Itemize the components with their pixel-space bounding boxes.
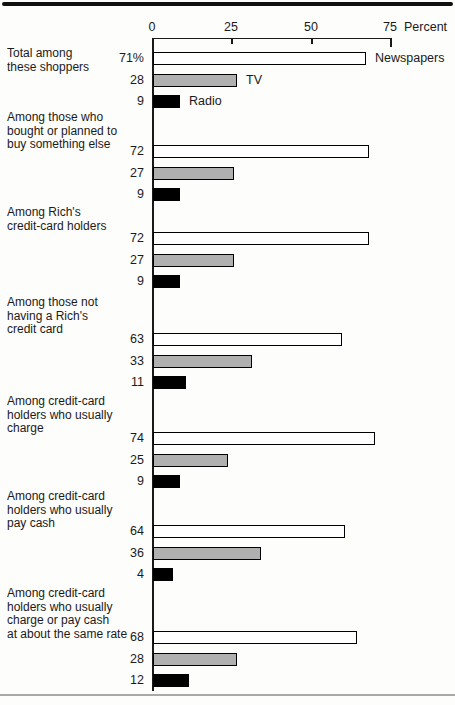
group-label-line: Among credit-card: [7, 490, 112, 504]
group-label: Total amongthese shoppers: [7, 47, 89, 74]
bar-newspapers: [153, 333, 342, 346]
group-label-line: credit-card holders: [7, 220, 106, 234]
axis-tick-label: 0: [136, 20, 168, 34]
bar-value-label: 9: [86, 188, 144, 201]
bar-value-label: 11: [86, 376, 144, 389]
series-legend-label: Radio: [189, 95, 222, 108]
bar-value-label: 71%: [86, 52, 144, 65]
bar-newspapers: [153, 232, 369, 245]
bar-radio: [153, 376, 186, 389]
bar-radio: [153, 475, 180, 488]
bar-radio: [153, 674, 189, 687]
bar-value-label: 12: [86, 674, 144, 687]
bar-tv: [153, 167, 234, 180]
bar-newspapers: [153, 525, 345, 538]
group-label-line: Among Rich's: [7, 206, 106, 220]
bar-newspapers: [153, 631, 357, 644]
bar-value-label: 64: [86, 525, 144, 538]
axis-tick-label: 25: [215, 20, 247, 34]
bar-value-label: 33: [86, 355, 144, 368]
group-label-line: Among credit-card: [7, 587, 127, 601]
axis-tick-mark: [311, 38, 313, 44]
bar-value-label: 9: [86, 95, 144, 108]
axis-tick-mark: [390, 38, 392, 47]
bar-value-label: 28: [86, 74, 144, 87]
bar-value-label: 27: [86, 167, 144, 180]
group-label: Among Rich'scredit-card holders: [7, 206, 106, 233]
bar-value-label: 74: [86, 432, 144, 445]
bar-radio: [153, 95, 180, 108]
axis-tick-label: 75: [374, 20, 406, 34]
group-label-line: these shoppers: [7, 61, 89, 75]
bar-tv: [153, 355, 252, 368]
group-label-line: Total among: [7, 47, 89, 61]
bar-tv: [153, 74, 237, 87]
axis-line: [152, 38, 390, 39]
group-label: Among those nothaving a Rich'scredit car…: [7, 296, 98, 337]
group-label-line: Among credit-card: [7, 395, 112, 409]
group-label-line: holders who usually: [7, 601, 127, 615]
bar-radio: [153, 275, 180, 288]
group-label-line: having a Rich's: [7, 310, 98, 324]
top-rule: [2, 2, 453, 6]
bar-value-label: 68: [86, 631, 144, 644]
bar-tv: [153, 454, 228, 467]
axis-tick-mark: [231, 38, 233, 44]
bar-tv: [153, 254, 234, 267]
bar-value-label: 25: [86, 454, 144, 467]
group-label-line: Among those not: [7, 296, 98, 310]
bar-value-label: 4: [86, 568, 144, 581]
series-legend-label: TV: [246, 74, 262, 87]
bar-tv: [153, 547, 261, 560]
group-label-line: holders who usually: [7, 504, 112, 518]
bar-newspapers: [153, 432, 375, 445]
group-label-line: credit card: [7, 323, 98, 337]
bar-tv: [153, 653, 237, 666]
group-label: Among credit-cardholders who usuallychar…: [7, 395, 112, 436]
bar-value-label: 9: [86, 275, 144, 288]
bar-newspapers: [153, 145, 369, 158]
group-label-line: charge or pay cash: [7, 614, 127, 628]
bar-newspapers: [153, 52, 366, 65]
group-label-line: bought or planned to: [7, 125, 117, 139]
bar-value-label: 27: [86, 254, 144, 267]
bar-radio: [153, 568, 173, 581]
axis-unit-label: Percent: [404, 20, 447, 34]
bar-value-label: 63: [86, 333, 144, 346]
bar-value-label: 28: [86, 653, 144, 666]
bar-value-label: 36: [86, 547, 144, 560]
axis-tick-label: 50: [295, 20, 327, 34]
group-label-line: holders who usually: [7, 409, 112, 423]
series-legend-label: Newspapers: [375, 52, 444, 65]
bar-value-label: 72: [86, 232, 144, 245]
bar-value-label: 9: [86, 475, 144, 488]
bar-value-label: 72: [86, 145, 144, 158]
group-label-line: Among those who: [7, 111, 117, 125]
bottom-rule: [0, 694, 455, 696]
bar-chart-figure: Percent 0255075Total amongthese shoppers…: [0, 0, 455, 705]
bar-radio: [153, 188, 180, 201]
